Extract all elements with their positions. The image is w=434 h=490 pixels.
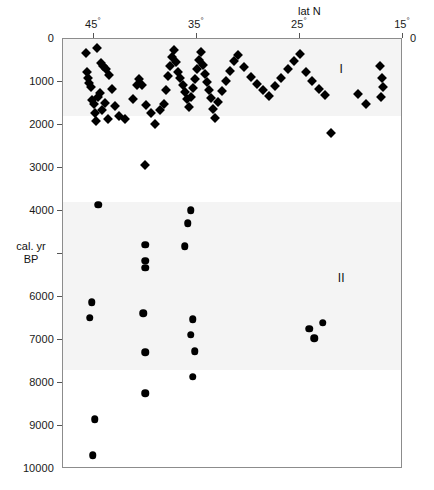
y-tick-label: 3000 [5,161,54,173]
y-tick-label: 7000 [5,333,54,345]
data-point-circle [88,298,96,306]
data-point-diamond [91,116,101,126]
y-tick-mark [57,253,62,254]
y-tick-mark [57,81,62,82]
x-tick-label: 35° [188,18,204,30]
x-axis-title: lat N [298,5,321,17]
y-tick-label: 1000 [5,75,54,87]
y-axis-title: cal. yr BP [16,240,45,265]
y-tick-mark [57,382,62,383]
y-tick-label: 10000 [5,462,54,474]
x-tick-mark [299,33,300,38]
shaded-band [63,202,401,370]
y-tick-label: 8000 [5,376,54,388]
x-tick-mark [402,33,403,38]
data-point-circle [189,316,197,324]
data-point-circle [319,319,327,327]
data-point-diamond [140,160,150,170]
data-point-circle [189,373,197,381]
y-axis-title-line2: BP [24,253,39,265]
y-tick-label: 4000 [5,204,54,216]
data-point-circle [187,206,195,214]
data-point-circle [94,201,102,209]
y-tick-mark [57,124,62,125]
data-point-circle [191,347,199,355]
data-point-circle [142,348,150,356]
y-tick-mark [57,339,62,340]
y-tick-mark [57,167,62,168]
unit-label: I [340,62,343,76]
y-tick-mark [57,425,62,426]
scatter-chart-figure: lat N cal. yr BP 45°35°25°15° 0100020003… [0,0,434,490]
data-point-circle [181,243,189,251]
y-axis-title-line1: cal. yr [16,240,45,252]
data-point-circle [142,390,150,398]
x-tick-label: 45° [85,18,101,30]
unit-label: II [338,271,345,285]
y-tick-label: 9000 [5,419,54,431]
data-point-circle [86,314,94,322]
y-tick-mark [57,210,62,211]
data-point-circle [311,335,319,343]
y-tick-label-right: 0 [410,32,416,44]
data-point-circle [184,219,192,227]
data-point-circle [187,331,195,339]
y-tick-label: 6000 [5,290,54,302]
y-tick-label: 0 [5,32,54,44]
x-tick-label: 15° [394,18,410,30]
data-point-circle [142,264,150,272]
data-point-diamond [150,119,160,129]
data-point-circle [305,325,313,333]
data-point-circle [91,415,99,423]
plot-area: III [62,38,402,468]
x-tick-mark [196,33,197,38]
data-point-diamond [326,128,336,138]
data-point-circle [140,310,148,318]
data-point-circle [142,241,150,249]
data-point-circle [89,451,97,459]
y-tick-label: 2000 [5,118,54,130]
y-tick-mark [57,296,62,297]
x-tick-label: 25° [291,18,307,30]
x-tick-mark [93,33,94,38]
